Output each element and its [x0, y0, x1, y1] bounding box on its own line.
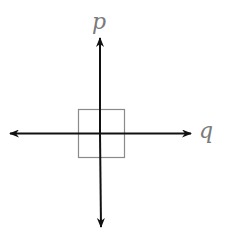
diagram-canvas: p q [0, 0, 228, 234]
axis-label-q: q [199, 118, 213, 143]
vertical-axis-p-down [100, 134, 101, 228]
axis-label-p: p [92, 9, 106, 34]
